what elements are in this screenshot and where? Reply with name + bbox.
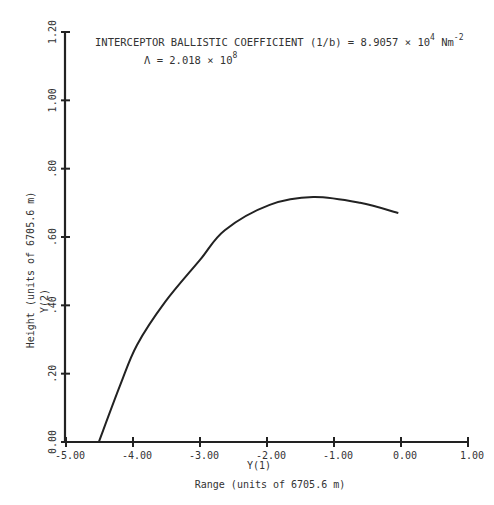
y-tick-label: .60	[47, 228, 58, 246]
x-tick-label: -1.00	[323, 450, 353, 461]
y-axis-variable: Y(2)	[39, 289, 50, 313]
x-tick-label: 1.00	[460, 450, 484, 461]
y-tick-label: 1.00	[47, 88, 58, 112]
trajectory-chart: INTERCEPTOR BALLISTIC COEFFICIENT (1/b) …	[0, 0, 494, 505]
ballistic-coefficient-annotation: INTERCEPTOR BALLISTIC COEFFICIENT (1/b) …	[95, 33, 464, 48]
y-tick-labels: 0.00.20.40.60.801.001.20	[47, 20, 58, 454]
lambda-annotation: Λ = 2.018 × 108	[144, 51, 238, 66]
y-tick-label: 1.20	[47, 20, 58, 44]
trajectory-curve	[99, 197, 398, 442]
x-tick-label: -3.00	[189, 450, 219, 461]
x-axis-variable: Y(1)	[247, 460, 271, 471]
x-axis-label: Range (units of 6705.6 m)	[195, 479, 346, 490]
y-tick-label: .20	[47, 365, 58, 383]
y-axis-label: Height (units of 6705.6 m)	[25, 192, 36, 349]
x-tick-label: -4.00	[122, 450, 152, 461]
y-tick-label: .80	[47, 160, 58, 178]
x-tick-label: 0.00	[393, 450, 417, 461]
x-tick-label: -5.00	[55, 450, 85, 461]
